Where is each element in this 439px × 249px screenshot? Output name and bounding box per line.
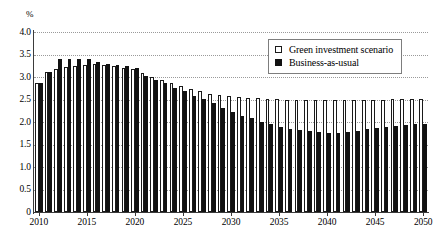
x-axis-tick-mark (375, 212, 376, 216)
bar-business-as-usual (308, 131, 312, 212)
x-axis-tick-mark (39, 212, 40, 216)
legend-item-bau: Business-as-usual (275, 56, 393, 69)
x-axis-tick-label: 2045 (366, 217, 385, 227)
x-axis-tick-mark (183, 212, 184, 216)
bar-business-as-usual (279, 127, 283, 213)
x-axis-tick-label: 2030 (222, 217, 241, 227)
bar-group (208, 32, 215, 212)
bar-business-as-usual (144, 76, 148, 212)
bar-group (45, 32, 52, 212)
bar-business-as-usual (96, 62, 100, 212)
x-axis-tick-label: 2015 (78, 217, 97, 227)
bar-business-as-usual (221, 108, 225, 212)
bar-business-as-usual (250, 118, 254, 212)
bar-business-as-usual (404, 125, 408, 212)
bar-group (179, 32, 186, 212)
bar-business-as-usual (375, 128, 379, 212)
bar-group (237, 32, 244, 212)
bar-group (170, 32, 177, 212)
bar-business-as-usual (423, 124, 427, 212)
bar-business-as-usual (48, 72, 52, 212)
bar-group (150, 32, 157, 212)
bar-group (131, 32, 138, 212)
bar-business-as-usual (346, 132, 350, 212)
x-axis-tick-label: 2020 (126, 217, 145, 227)
bar-business-as-usual (366, 129, 370, 212)
x-axis-tick-label: 2050 (414, 217, 433, 227)
y-axis-tick-label: 2.5 (5, 95, 31, 105)
y-axis-tick-label: 4.0 (5, 28, 31, 38)
bar-business-as-usual (289, 129, 293, 212)
bar-business-as-usual (298, 130, 302, 212)
x-axis-tick-mark (279, 212, 280, 216)
legend-label-green: Green investment scenario (289, 44, 393, 55)
bar-business-as-usual (269, 124, 273, 212)
bar-business-as-usual (414, 124, 418, 212)
bar-group (227, 32, 234, 212)
legend-item-green: Green investment scenario (275, 43, 393, 56)
bar-group (246, 32, 253, 212)
bar-group (141, 32, 148, 212)
bar-business-as-usual (68, 59, 72, 212)
bar-business-as-usual (125, 66, 129, 212)
bar-group (256, 32, 263, 212)
legend-swatch-filled-square-icon (275, 59, 282, 66)
bar-business-as-usual (164, 83, 168, 212)
bar-business-as-usual (202, 99, 206, 212)
bar-business-as-usual (260, 122, 264, 212)
chart-figure: % 00.51.01.52.02.53.03.54.0 201020152020… (0, 0, 439, 249)
x-axis-tick-label: 2040 (318, 217, 337, 227)
x-axis-tick-mark (327, 212, 328, 216)
legend-label-bau: Business-as-usual (289, 57, 359, 68)
x-axis-tick-label: 2035 (270, 217, 289, 227)
bar-business-as-usual (394, 126, 398, 212)
y-axis-tick-label: 2.0 (5, 118, 31, 128)
bar-business-as-usual (385, 127, 389, 213)
y-axis-line (33, 30, 34, 214)
bar-business-as-usual (212, 103, 216, 212)
bar-group (102, 32, 109, 212)
bar-group (83, 32, 90, 212)
bar-business-as-usual (87, 59, 91, 212)
bar-group (93, 32, 100, 212)
bar-group (54, 32, 61, 212)
bar-group (410, 32, 417, 212)
y-axis-tick-label: 3.5 (5, 50, 31, 60)
bar-business-as-usual (116, 65, 120, 212)
bar-group (35, 32, 42, 212)
bar-business-as-usual (58, 59, 62, 212)
y-axis-tick-label: 0.5 (5, 185, 31, 195)
y-axis-tick-label: 3.0 (5, 73, 31, 83)
bar-business-as-usual (337, 133, 341, 212)
bar-group (189, 32, 196, 212)
bar-group (122, 32, 129, 212)
x-axis-tick-mark (135, 212, 136, 216)
y-axis-tick-label: 1.0 (5, 163, 31, 173)
bar-business-as-usual (317, 132, 321, 212)
x-axis-tick-label: 2010 (29, 217, 48, 227)
chart-legend: Green investment scenario Business-as-us… (268, 39, 402, 74)
y-axis-tick-label: 0 (5, 208, 31, 218)
bar-business-as-usual (193, 96, 197, 212)
bar-business-as-usual (106, 64, 110, 212)
bar-group (419, 32, 426, 212)
bar-group (112, 32, 119, 212)
bar-business-as-usual (231, 112, 235, 212)
bar-group (73, 32, 80, 212)
y-axis-tick-label: 1.5 (5, 140, 31, 150)
x-axis-tick-mark (423, 212, 424, 216)
bar-business-as-usual (327, 133, 331, 212)
bar-business-as-usual (39, 83, 43, 212)
bar-group (218, 32, 225, 212)
bar-business-as-usual (173, 88, 177, 212)
bar-group (160, 32, 167, 212)
bar-group (198, 32, 205, 212)
x-axis-tick-mark (87, 212, 88, 216)
x-axis-tick-label: 2025 (174, 217, 193, 227)
x-axis-tick-mark (231, 212, 232, 216)
bar-business-as-usual (241, 116, 245, 212)
bar-group (64, 32, 71, 212)
bar-business-as-usual (356, 131, 360, 212)
y-axis-tick-labels: 00.51.01.52.02.53.03.54.0 (0, 0, 31, 249)
legend-swatch-hollow-square-icon (275, 46, 282, 53)
